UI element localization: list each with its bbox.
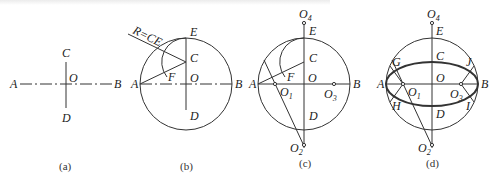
label-d-O3: O3 xyxy=(450,87,463,103)
label-b-C: C xyxy=(190,51,199,65)
label-b-B: B xyxy=(235,77,243,91)
label-b-O: O xyxy=(190,71,199,85)
label-b-R: R=CE xyxy=(130,23,165,50)
construction-svg: A B C D O (a) A B C D E F O R=CE (b) A B… xyxy=(0,0,493,179)
label-c-B: B xyxy=(353,77,361,91)
label-b-A: A xyxy=(130,77,139,91)
label-d-G: G xyxy=(392,55,401,69)
label-d-O4: O4 xyxy=(427,7,440,23)
label-d-O2: O2 xyxy=(418,141,431,157)
label-b-D: D xyxy=(189,109,199,123)
panel-b-drawing xyxy=(128,34,232,130)
caption-c: (c) xyxy=(299,157,312,170)
label-c-O3: O3 xyxy=(324,87,337,103)
label-c-O4: O4 xyxy=(299,7,312,23)
label-d-I: I xyxy=(465,99,471,113)
label-a-B: B xyxy=(114,77,122,91)
label-c-O: O xyxy=(308,71,317,85)
label-d-C: C xyxy=(436,49,445,63)
label-c-F: F xyxy=(286,70,295,84)
label-d-J: J xyxy=(466,55,472,69)
label-c-O2: O2 xyxy=(290,141,303,157)
label-a-O: O xyxy=(69,71,78,85)
caption-d: (d) xyxy=(426,157,439,170)
label-d-A: A xyxy=(376,77,385,91)
label-c-O1: O1 xyxy=(280,85,293,101)
label-b-E: E xyxy=(189,25,198,39)
label-d-B: B xyxy=(481,77,489,91)
label-b-F: F xyxy=(167,70,176,84)
panel-d-drawing xyxy=(386,21,478,148)
label-d-O: O xyxy=(436,71,445,85)
label-d-E: E xyxy=(435,24,444,38)
diagram-figure: A B C D O (a) A B C D E F O R=CE (b) A B… xyxy=(0,0,493,179)
label-c-D: D xyxy=(308,109,318,123)
label-c-A: A xyxy=(248,77,257,91)
label-d-H: H xyxy=(391,99,402,113)
label-a-A: A xyxy=(9,77,18,91)
label-d-D: D xyxy=(435,107,445,121)
label-a-C: C xyxy=(62,46,71,60)
label-d-O1: O1 xyxy=(408,85,421,101)
caption-a: (a) xyxy=(59,160,72,173)
panel-c-drawing xyxy=(258,21,350,148)
label-a-D: D xyxy=(61,111,71,125)
caption-b: (b) xyxy=(180,160,193,173)
label-c-E: E xyxy=(308,24,317,38)
label-c-C: C xyxy=(309,51,318,65)
panel-a-axes xyxy=(20,62,112,108)
